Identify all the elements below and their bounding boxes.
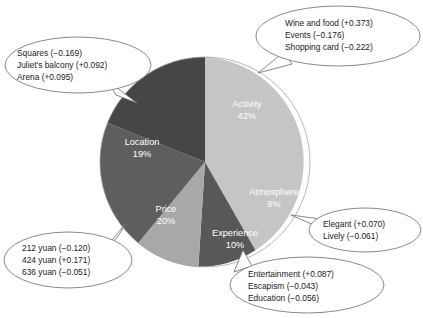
callout-price-line-3: 636 yuan (−0.051)	[22, 267, 90, 277]
callout-price-line-2: 424 yuan (+0.171)	[22, 255, 90, 265]
slice-label-atmosphere: Atmosphere	[249, 187, 299, 197]
callout-experience-line-1: Entertainment (+0.087)	[248, 269, 334, 279]
slice-label-activity: Activity	[232, 99, 262, 109]
pie-slices-group	[100, 57, 310, 267]
callout-price[interactable]: 212 yuan (−0.120) 424 yuan (+0.171) 636 …	[4, 223, 132, 288]
callout-location-line-3: Arena (+0.095)	[17, 72, 73, 82]
pie-chart-figure: Activity 42% Location 19% Price 20% Expe…	[0, 0, 423, 318]
callout-price-line-1: 212 yuan (−0.120)	[22, 243, 90, 253]
slice-value-experience: 10%	[226, 240, 244, 250]
callout-activity-line-1: Wine and food (+0.373)	[285, 18, 373, 28]
callout-activity-line-3: Shopping card (−0.222)	[285, 42, 373, 52]
slice-value-price: 20%	[157, 216, 175, 226]
slice-label-location: Location	[125, 137, 160, 147]
chart-canvas: Activity 42% Location 19% Price 20% Expe…	[0, 0, 423, 318]
slice-label-price: Price	[156, 204, 177, 214]
callout-atmosphere[interactable]: Elegant (+0.070) Lively (−0.061)	[291, 208, 421, 252]
callout-experience-line-2: Escapism (−0.043)	[248, 281, 318, 291]
callout-location-line-1: Squares (−0.169)	[17, 48, 82, 58]
callout-experience[interactable]: Entertainment (+0.087) Escapism (−0.043)…	[230, 250, 384, 313]
callout-activity[interactable]: Wine and food (+0.373) Events (−0.176) S…	[256, 6, 420, 73]
callout-atmosphere-line-1: Elegant (+0.070)	[323, 219, 385, 229]
slice-value-activity: 42%	[238, 111, 256, 121]
callout-atmosphere-line-2: Lively (−0.061)	[323, 231, 378, 241]
callout-activity-line-2: Events (−0.176)	[285, 30, 345, 40]
slice-value-atmosphere: 9%	[267, 199, 280, 209]
slice-label-experience: Experience	[212, 228, 258, 238]
callout-experience-line-3: Education (−0.056)	[248, 293, 319, 303]
callout-atmosphere-bubble	[309, 208, 421, 252]
slice-value-location: 19%	[133, 149, 151, 159]
callout-location-line-2: Juliet's balcony (+0.092)	[17, 60, 107, 70]
